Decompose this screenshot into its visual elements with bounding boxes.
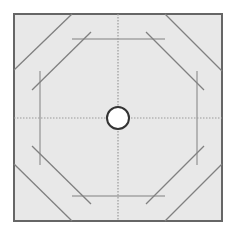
fold-diagram <box>0 0 235 232</box>
center-circle-icon <box>107 107 129 129</box>
